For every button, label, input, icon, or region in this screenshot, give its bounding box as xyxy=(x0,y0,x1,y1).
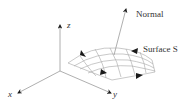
x-axis xyxy=(18,71,60,93)
arrow-icon xyxy=(136,73,143,79)
arrow-icon xyxy=(80,50,86,57)
y-axis-label: y xyxy=(112,89,117,99)
y-axis xyxy=(60,71,111,93)
surface-label-text: Surface S xyxy=(143,44,178,54)
z-axis-label: z xyxy=(66,20,71,30)
boundary-orientation-arrows xyxy=(80,48,143,79)
surface-integral-diagram: z x y Normal Surface S xyxy=(0,0,191,108)
surface-label: Surface S xyxy=(143,44,178,54)
normal-label: Normal xyxy=(136,9,164,19)
coordinate-axes xyxy=(18,25,111,93)
arrow-icon xyxy=(131,48,138,54)
arrow-icon xyxy=(100,69,107,75)
x-axis-label: x xyxy=(7,89,12,99)
